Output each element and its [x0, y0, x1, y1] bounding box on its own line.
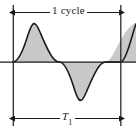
period-dimension-label: T1: [60, 111, 75, 126]
sine-wave-period-figure: 1 cycle T1: [0, 0, 136, 131]
cycle-dimension-label: 1 cycle: [50, 5, 87, 16]
period-subscript: 1: [68, 118, 72, 127]
